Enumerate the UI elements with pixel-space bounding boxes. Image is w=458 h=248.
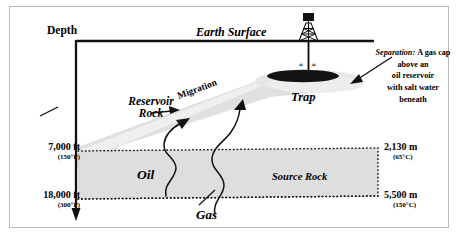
depth-tick-right-shallow: 2,130 m (65°C)	[384, 141, 458, 161]
gas-cap-tick-right: “	[312, 62, 316, 71]
temperature-value: (65°C)	[393, 153, 458, 161]
source-rock-body	[78, 148, 378, 199]
depth-axis-label: Depth	[47, 25, 77, 37]
reservoir-rock-label: Reservoir Rock	[118, 96, 184, 120]
depth-value: 5,500 m	[384, 189, 458, 200]
separation-annotation-heading: Separation:	[376, 48, 416, 57]
temperature-value: (300°F)	[14, 201, 80, 209]
temperature-value: (150°C)	[393, 201, 458, 209]
temperature-value: (150°F)	[14, 153, 80, 161]
oil-label: Oil	[137, 168, 154, 182]
depth-value: 7,000 ft	[14, 141, 80, 152]
gas-cap-tick-left: “	[299, 62, 303, 71]
gas-cap-lens	[267, 70, 339, 82]
gas-label: Gas	[196, 208, 217, 222]
depth-tick-left-shallow: 7,000 ft (150°F)	[14, 141, 80, 161]
reservoir-updip-arrow	[40, 107, 58, 116]
separation-annotation: Separation: A gas cap above an oil reser…	[372, 47, 454, 105]
earth-surface-label: Earth Surface	[196, 26, 266, 38]
trap-label: Trap	[291, 91, 316, 104]
depth-tick-right-deep: 5,500 m (150°C)	[384, 189, 458, 209]
source-rock-label: Source Rock	[272, 172, 327, 183]
depth-tick-left-deep: 18,000 ft (300°F)	[14, 189, 80, 209]
figure-canvas: “ “ Depth Earth Surface Reservoir Rock M…	[0, 0, 458, 248]
depth-value: 18,000 ft	[14, 189, 80, 200]
depth-value: 2,130 m	[384, 141, 458, 152]
drilling-derrick	[299, 13, 318, 41]
depth-axis-arrowhead	[72, 208, 81, 221]
